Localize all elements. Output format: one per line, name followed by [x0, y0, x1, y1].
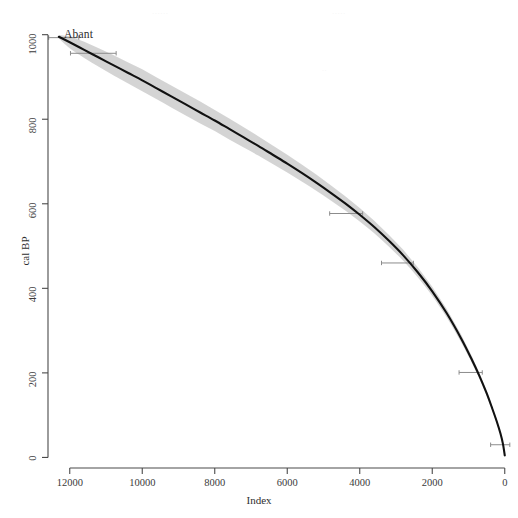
x-tick-label: 6000 — [277, 477, 298, 488]
y-tick-label: 600 — [27, 202, 38, 234]
x-axis-title: Index — [246, 494, 271, 506]
chart-canvas — [0, 0, 518, 518]
age-depth-model-line — [59, 37, 505, 456]
y-tick-label: 200 — [27, 371, 38, 403]
calibrated-date-error-bars — [49, 35, 510, 447]
x-tick-label: 2000 — [422, 477, 443, 488]
x-tick-label: 4000 — [349, 477, 370, 488]
confidence-band — [59, 35, 505, 456]
y-tick-label: 400 — [27, 287, 38, 319]
age-depth-chart-figure: ······ ····· ·· Abant Index cal BP 12000… — [0, 0, 518, 518]
y-tick-marks — [42, 35, 48, 458]
x-tick-marks — [70, 468, 505, 474]
chart-axes — [42, 35, 505, 474]
y-tick-label: 1000 — [27, 33, 38, 65]
y-tick-label: 0 — [27, 456, 38, 488]
x-tick-label: 8000 — [204, 477, 225, 488]
panel-title: Abant — [64, 28, 93, 40]
y-axis-title: cal BP — [19, 236, 31, 265]
x-tick-label: 10000 — [129, 477, 155, 488]
y-tick-label: 800 — [27, 118, 38, 150]
x-tick-label: 12000 — [57, 477, 83, 488]
x-tick-label: 0 — [502, 477, 507, 488]
